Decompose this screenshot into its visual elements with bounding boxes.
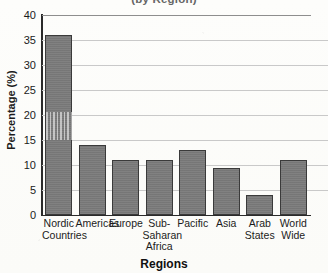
bar-world-wide[interactable] [280, 160, 307, 215]
x-tick-line: Nordic [42, 218, 76, 230]
chart-title: (by Region) [0, 0, 328, 5]
y-tick-30: 30 [0, 59, 36, 71]
x-tick-sub-saharan-africa: Sub-SaharanAfrica [143, 218, 177, 253]
y-tick-15: 15 [0, 134, 36, 146]
plot-area [42, 15, 310, 215]
bar-asia[interactable] [213, 168, 240, 216]
bar-nordic-countries[interactable] [45, 35, 72, 215]
chart-page: (by Region) Percentage (%) 0510152025303… [0, 0, 328, 273]
y-tick-25: 25 [0, 84, 36, 96]
x-tick-line: Arab [243, 218, 277, 230]
y-tick-5: 5 [0, 184, 36, 196]
y-tick-40: 40 [0, 9, 36, 21]
x-axis-title: Regions [0, 257, 328, 271]
x-tick-world-wide: WorldWide [277, 218, 311, 241]
x-tick-line: States [243, 230, 277, 242]
bar-sub-saharan-africa[interactable] [146, 160, 173, 215]
x-tick-pacific: Pacific [176, 218, 210, 230]
x-tick-line: Wide [277, 230, 311, 242]
x-tick-line: World [277, 218, 311, 230]
x-tick-line: Countries [42, 230, 76, 242]
x-tick-line: Sub- [143, 218, 177, 230]
x-tick-line: Americas [76, 218, 110, 230]
bar-europe[interactable] [112, 160, 139, 215]
x-tick-americas: Americas [76, 218, 110, 230]
x-tick-asia: Asia [210, 218, 244, 230]
bar-pacific[interactable] [179, 150, 206, 215]
x-tick-line: Africa [143, 241, 177, 253]
x-tick-europe: Europe [109, 218, 143, 230]
y-tick-0: 0 [0, 209, 36, 221]
y-tick-35: 35 [0, 34, 36, 46]
y-tick-10: 10 [0, 159, 36, 171]
x-tick-nordic-countries: NordicCountries [42, 218, 76, 241]
bar-arab-states[interactable] [246, 195, 273, 215]
x-tick-arab-states: ArabStates [243, 218, 277, 241]
x-tick-line: Pacific [176, 218, 210, 230]
y-tick-20: 20 [0, 109, 36, 121]
x-tick-line: Asia [210, 218, 244, 230]
bar-americas[interactable] [79, 145, 106, 215]
x-tick-line: Europe [109, 218, 143, 230]
